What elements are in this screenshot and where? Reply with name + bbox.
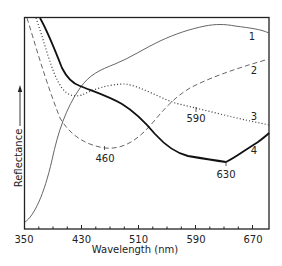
curve-1 [25, 25, 269, 223]
annotation-460: 460 [95, 153, 114, 164]
y-axis-title: Reflectance [13, 129, 24, 188]
annotation-590: 590 [186, 113, 205, 124]
reflectance-chart: 350 430 510 590 670 Wavelength (nm) Refl… [0, 0, 282, 266]
x-axis-title: Wavelength (nm) [92, 244, 178, 255]
x-tick-350: 350 [14, 234, 33, 245]
x-tick-430: 430 [72, 234, 91, 245]
curve-label-1: 1 [249, 31, 255, 42]
plot-frame [25, 18, 270, 230]
annotation-630: 630 [216, 169, 235, 180]
curve-2 [27, 18, 269, 148]
curve-3 [36, 18, 269, 125]
curve-4 [40, 18, 269, 162]
curve-label-4: 4 [251, 145, 257, 156]
x-tick-590: 590 [186, 234, 205, 245]
y-axis-arrow-icon [18, 85, 22, 126]
curve-label-3: 3 [251, 111, 257, 122]
curve-label-2: 2 [251, 65, 257, 76]
x-tick-670: 670 [243, 234, 262, 245]
